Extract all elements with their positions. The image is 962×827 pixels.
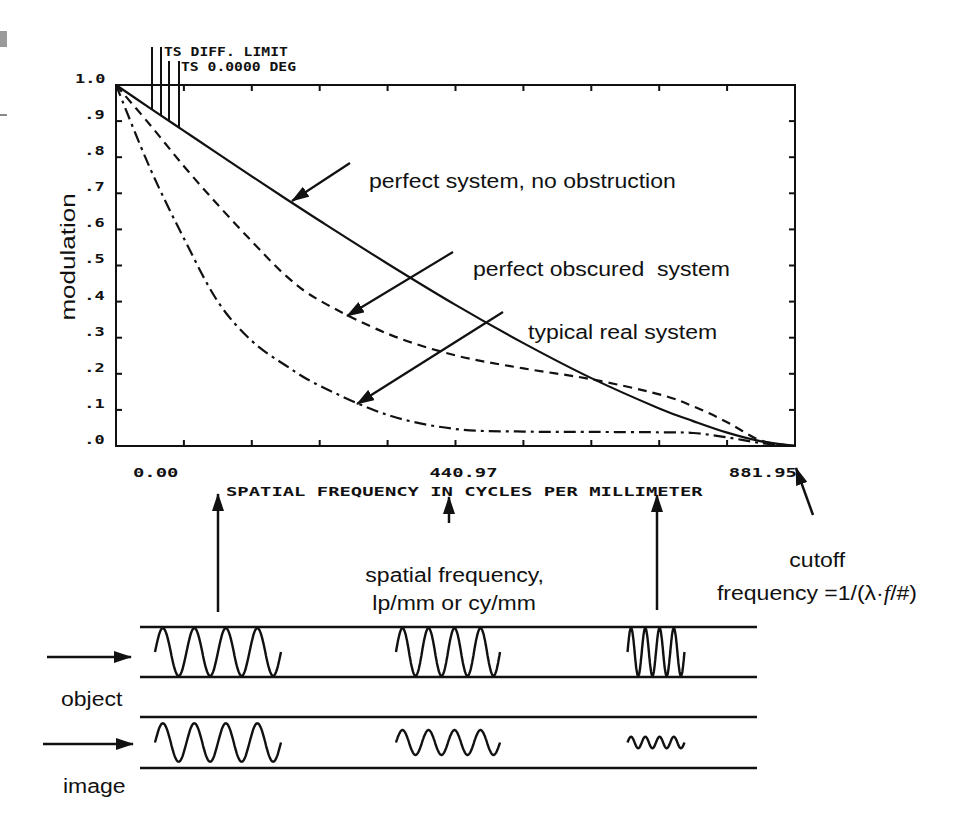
arrow-obscured-system [347, 252, 453, 316]
formula-f-number-symbol: f [883, 582, 889, 604]
y-tick-text: .6 [85, 216, 105, 229]
y-tick-0.3: .3 [45, 325, 105, 338]
image-wave-medium [396, 730, 500, 755]
y-axis-title: modulation [58, 193, 78, 320]
object-wave-high [628, 628, 685, 676]
y-tick-0.9: .9 [45, 108, 105, 121]
arrow-perfect-system [292, 163, 350, 201]
y-tick-1.0: 1.0 [45, 72, 105, 85]
label-text: typical real system [528, 322, 717, 342]
formula-text: frequency =1/(λ·f/#) [717, 583, 917, 603]
object-label-text: object [61, 689, 122, 709]
y-tick-0.7: .7 [45, 180, 105, 193]
label-perfect-system: perfect system, no obstruction [358, 151, 636, 191]
x-tick-text: 0.00 [133, 466, 178, 479]
label-perfect-obscured-system: perfect obscured system [462, 239, 697, 279]
arrow-typical-system [357, 312, 503, 404]
formula-suffix: /#) [890, 582, 917, 604]
ts-deg-label: TS 0.0000 DEG [165, 47, 282, 73]
label-typical-real-system: typical real system [517, 302, 693, 342]
y-tick-text: .3 [85, 325, 105, 338]
y-tick-text: .1 [85, 397, 105, 410]
object-wave-low [155, 628, 281, 676]
label-text: perfect obscured system [473, 259, 730, 279]
object-wave-medium [396, 628, 500, 676]
y-tick-0.8: .8 [45, 144, 105, 157]
y-tick-0.0: .0 [45, 433, 105, 446]
y-tick-0.2: .2 [45, 361, 105, 374]
spatial-frequency-note-line2: lp/mm or cy/mm [299, 573, 599, 613]
ts-deg-text: TS 0.0000 DEG [181, 60, 296, 73]
y-tick-text: .5 [85, 252, 105, 265]
label-text: perfect system, no obstruction [369, 171, 676, 191]
y-tick-text: .4 [85, 289, 105, 302]
cutoff-formula: frequency =1/(λ·f/#) [661, 563, 961, 603]
x-tick-max: 881.95 [597, 453, 797, 479]
figure-canvas [0, 0, 962, 827]
y-tick-text: .7 [85, 180, 105, 193]
y-tick-text: .2 [85, 361, 105, 374]
image-wave-low [155, 723, 281, 761]
y-tick-text: 1.0 [74, 72, 105, 85]
object-label: object [50, 669, 115, 709]
arrow-cutoff [796, 468, 813, 515]
y-tick-text: .9 [85, 108, 105, 121]
x-axis-title-text: SPATIAL FREQUENCY IN CYCLES PER MILLIMET… [226, 485, 703, 498]
x-tick-text: 881.95 [729, 466, 797, 479]
x-tick-min: 0.00 [117, 453, 164, 479]
scan-mark [0, 31, 7, 47]
y-tick-text: .0 [85, 433, 105, 446]
image-label: image [52, 756, 118, 796]
y-tick-0.1: .1 [45, 397, 105, 410]
x-axis-title: SPATIAL FREQUENCY IN CYCLES PER MILLIMET… [210, 472, 554, 498]
image-label-text: image [63, 776, 126, 796]
image-wave-high [628, 737, 685, 749]
y-tick-text: .8 [85, 144, 105, 157]
note-text: lp/mm or cy/mm [373, 593, 537, 613]
formula-prefix: frequency =1/(λ· [717, 582, 884, 604]
